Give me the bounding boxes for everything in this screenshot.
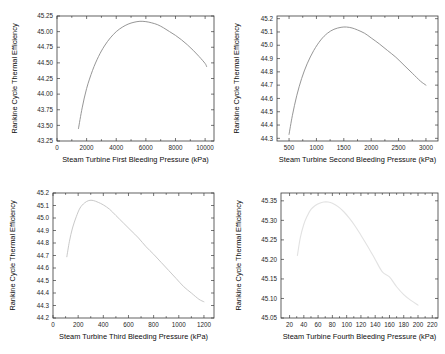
x-axis-title: Steam Turbine Third Bleeding Pressure (k… [59,332,208,341]
y-tick-label: 45.1 [261,28,274,35]
y-axis-title: Rankine Cycle Thermal Efficiency [232,23,241,134]
x-tick-label: 60 [315,321,323,328]
efficiency-curve [67,200,204,302]
x-tick-label: 40 [300,321,308,328]
plot-area-4: 2040608010012014016018020022045.0545.104… [223,177,445,354]
y-tick-label: 45.30 [261,217,277,224]
y-tick-label: 44.50 [37,59,53,66]
y-tick-label: 44.8 [37,239,50,246]
y-tick-label: 44.9 [261,55,274,62]
plot-area-1: 020004000600080001000043.2543.5043.7544.… [0,0,223,177]
x-tick-label: 3000 [419,144,434,151]
figure-subplot-grid: 020004000600080001000043.2543.5043.7544.… [0,0,445,354]
x-tick-label: 1200 [197,321,212,328]
y-tick-label: 44.00 [37,90,53,97]
subplot-1-canvas: 020004000600080001000043.2543.5043.7544.… [0,0,223,177]
subplot-second-bleeding-pressure: 5001000150020002500300044.344.444.544.64… [223,0,445,177]
y-tick-label: 45.10 [261,295,277,302]
y-tick-label: 44.5 [261,108,274,115]
x-tick-label: 10000 [196,144,214,151]
y-tick-label: 45.35 [261,197,277,204]
y-tick-label: 43.50 [37,122,53,129]
y-tick-label: 44.7 [261,81,274,88]
x-tick-label: 220 [427,321,438,328]
efficiency-curve [78,21,206,128]
y-tick-label: 45.2 [261,15,274,22]
y-tick-label: 44.6 [261,95,274,102]
x-tick-label: 100 [341,321,352,328]
x-axis-title: Steam Turbine Fourth Bleeding Pressure (… [283,332,437,341]
x-tick-label: 1000 [172,321,187,328]
y-tick-label: 43.75 [37,106,53,113]
x-axis-title: Steam Turbine Second Bleeding Pressure (… [279,155,436,164]
y-tick-label: 45.25 [261,236,277,243]
y-tick-label: 44.4 [37,289,50,296]
x-tick-label: 2000 [364,144,379,151]
y-axis-title: Rankine Cycle Thermal Efficiency [234,200,243,311]
subplot-fourth-bleeding-pressure: 2040608010012014016018020022045.0545.104… [223,177,445,354]
y-axis-title: Rankine Cycle Thermal Efficiency [10,23,19,134]
y-tick-label: 45.15 [261,275,277,282]
plot-area-2: 5001000150020002500300044.344.444.544.64… [223,0,445,177]
x-tick-label: 120 [356,321,367,328]
y-tick-label: 44.5 [37,277,50,284]
x-tick-label: 600 [123,321,134,328]
y-tick-label: 44.2 [37,314,50,321]
x-tick-label: 4000 [109,144,124,151]
x-tick-label: 20 [286,321,294,328]
axes-frame [53,193,214,318]
x-tick-label: 80 [329,321,337,328]
y-tick-label: 45.2 [37,189,50,196]
y-tick-label: 44.6 [37,264,50,271]
x-tick-label: 2000 [80,144,95,151]
y-tick-label: 44.9 [37,227,50,234]
x-tick-label: 6000 [139,144,154,151]
x-tick-label: 1500 [337,144,352,151]
subplot-first-bleeding-pressure: 020004000600080001000043.2543.5043.7544.… [0,0,223,177]
y-tick-label: 44.8 [261,68,274,75]
y-axis-title: Rankine Cycle Thermal Efficiency [8,200,17,311]
y-tick-label: 44.4 [261,121,274,128]
x-tick-label: 180 [398,321,409,328]
x-tick-label: 800 [148,321,159,328]
x-tick-label: 1000 [309,144,324,151]
x-tick-label: 500 [284,144,295,151]
subplot-4-canvas: 2040608010012014016018020022045.0545.104… [223,177,445,354]
y-tick-label: 45.00 [37,28,53,35]
y-tick-label: 45.25 [37,12,53,19]
y-tick-label: 45.20 [261,256,277,263]
x-axis-title: Steam Turbine First Bleeding Pressure (k… [62,155,209,164]
subplot-2-canvas: 5001000150020002500300044.344.444.544.64… [223,0,445,177]
y-tick-label: 43.25 [37,137,53,144]
y-tick-label: 44.3 [37,302,50,309]
y-tick-label: 45.1 [37,202,50,209]
x-tick-label: 2500 [392,144,407,151]
x-tick-label: 0 [55,144,59,151]
y-tick-label: 45.05 [261,314,277,321]
y-tick-label: 44.75 [37,43,53,50]
y-tick-label: 45.0 [261,41,274,48]
subplot-third-bleeding-pressure: 02004006008001000120044.244.344.444.544.… [0,177,223,354]
y-tick-label: 45.0 [37,214,50,221]
axes-frame [277,16,438,141]
x-tick-label: 0 [51,321,55,328]
subplot-3-canvas: 02004006008001000120044.244.344.444.544.… [0,177,223,354]
x-tick-label: 200 [413,321,424,328]
x-tick-label: 160 [384,321,395,328]
y-tick-label: 44.7 [37,252,50,259]
axes-frame [281,193,438,318]
x-tick-label: 8000 [168,144,183,151]
y-tick-label: 44.25 [37,75,53,82]
x-tick-label: 140 [370,321,381,328]
efficiency-curve [289,27,426,134]
plot-area-3: 02004006008001000120044.244.344.444.544.… [0,177,223,354]
x-tick-label: 200 [73,321,84,328]
axes-frame [57,16,214,141]
efficiency-curve [297,202,418,305]
x-tick-label: 400 [98,321,109,328]
y-tick-label: 44.3 [261,135,274,142]
